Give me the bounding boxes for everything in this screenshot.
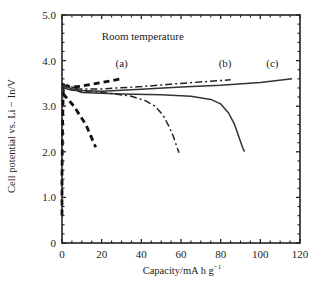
- x-tick-label: 60: [176, 248, 188, 260]
- curve-a-charge: [62, 79, 122, 216]
- curve-c-discharge: [62, 86, 245, 152]
- annotation-label: (b): [219, 57, 232, 70]
- annotations: Room temperature(a)(b)(c): [102, 30, 279, 70]
- axis-ticks: 02040608010012001.02.03.04.05.0: [42, 9, 309, 260]
- y-axis-label: Cell potential vs. Li − In/V: [6, 79, 17, 193]
- x-tick-label: 120: [292, 248, 309, 260]
- x-axis-label-text: Capacity/mA h g: [143, 265, 214, 276]
- curve-c-charge: [62, 79, 292, 93]
- x-axis-label-exponent: −1: [214, 263, 221, 271]
- chart: 02040608010012001.02.03.04.05.0 Room tem…: [0, 0, 324, 292]
- y-tick-label: 4.0: [42, 55, 56, 67]
- x-tick-label: 40: [136, 248, 148, 260]
- y-tick-label: 3.0: [42, 100, 56, 112]
- y-tick-label: 2.0: [42, 146, 56, 158]
- y-tick-label: 5.0: [42, 9, 56, 21]
- x-tick-label: 80: [215, 248, 227, 260]
- x-tick-label: 100: [252, 248, 269, 260]
- curves: [62, 79, 292, 216]
- x-tick-label: 0: [59, 248, 65, 260]
- y-tick-label: 1.0: [42, 191, 56, 203]
- annotation-label: (c): [266, 57, 279, 70]
- x-tick-label: 20: [96, 248, 108, 260]
- x-axis-label: Capacity/mA h g−1: [143, 263, 222, 276]
- annotation-label: Room temperature: [102, 30, 184, 42]
- annotation-label: (a): [116, 57, 129, 70]
- y-tick-label: 0: [51, 237, 57, 249]
- plot-frame: [62, 15, 300, 243]
- plot-area: [62, 15, 300, 243]
